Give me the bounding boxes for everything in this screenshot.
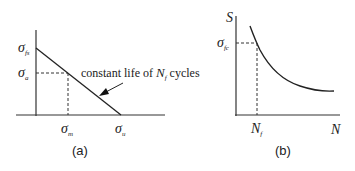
label-sigma-u: σu	[115, 121, 126, 138]
caption-b: (b)	[275, 143, 291, 158]
label-sigma-a: σa	[18, 65, 29, 82]
s-n-curve	[250, 26, 334, 91]
label-s-axis: S	[226, 10, 233, 25]
label-sigma-fs: σfs	[18, 40, 30, 57]
panel-a: σfs σa σm σu constant life of Nf cycles …	[16, 30, 200, 158]
caption-a: (a)	[72, 143, 88, 158]
label-sigma-fc: σfc	[217, 35, 230, 52]
diagram-canvas: σfs σa σm σu constant life of Nf cycles …	[0, 0, 355, 171]
label-n-axis: N	[330, 122, 341, 137]
panel-b: S σfc Nf N (b)	[217, 10, 341, 158]
arrow-head-icon	[99, 88, 109, 96]
label-sigma-m: σm	[61, 121, 73, 138]
label-nf: Nf	[250, 121, 263, 138]
constant-life-line	[36, 48, 121, 115]
constant-life-annotation: constant life of Nf cycles	[81, 65, 200, 82]
